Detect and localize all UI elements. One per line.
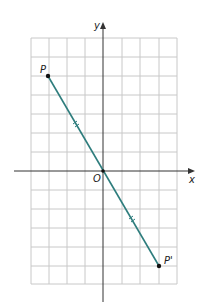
point-p-prime [157, 264, 161, 268]
x-axis-label: x [188, 174, 195, 185]
origin-point [101, 169, 105, 173]
coordinate-plane: y x O P P' [0, 0, 217, 308]
point-p-label: P [40, 64, 47, 75]
point-p [46, 74, 50, 78]
y-axis-arrow-icon [100, 22, 106, 29]
grid [31, 38, 177, 284]
point-p-prime-label: P' [164, 255, 173, 266]
origin-label: O [93, 173, 101, 184]
y-axis-label: y [93, 20, 101, 31]
